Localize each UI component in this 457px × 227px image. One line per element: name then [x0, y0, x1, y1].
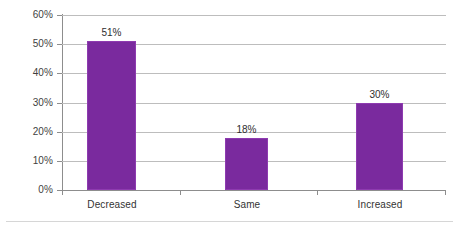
gridline-60	[62, 15, 446, 16]
x-axis-label-increased: Increased	[358, 199, 403, 210]
footer-divider	[6, 221, 453, 222]
x-axis-label-same: Same	[234, 199, 261, 210]
bar-increased[interactable]	[356, 103, 403, 191]
x-axis-tick-mark-1	[180, 190, 181, 195]
bar-value-label-decreased: 51%	[87, 28, 136, 38]
y-axis-tick-label-20: 20%	[5, 127, 53, 137]
y-axis-tick-label-40: 40%	[5, 68, 53, 78]
bar-same[interactable]	[225, 138, 268, 191]
bar-value-label-increased: 30%	[356, 90, 403, 100]
x-axis-tick-mark-2	[317, 190, 318, 195]
bar-value-label-same: 18%	[225, 125, 268, 135]
y-axis-tick-label-10: 10%	[5, 156, 53, 166]
x-axis-label-decreased: Decreased	[87, 199, 136, 210]
y-axis-tick-label-30: 30%	[5, 98, 53, 108]
y-axis-labels: 60% 50% 40% 30% 20% 10% 0%	[0, 0, 53, 227]
plot-area	[62, 15, 446, 190]
x-axis-tick-mark-start	[62, 190, 63, 195]
bar-decreased[interactable]	[87, 41, 136, 190]
y-axis-tick-label-0: 0%	[5, 185, 53, 195]
bar-chart: 60% 50% 40% 30% 20% 10% 0% 51% 18% 30% D…	[0, 0, 457, 227]
x-axis-line	[62, 190, 446, 191]
y-axis-tick-label-60: 60%	[5, 10, 53, 20]
x-axis-tick-mark-end	[445, 190, 446, 195]
y-axis-tick-label-50: 50%	[5, 39, 53, 49]
